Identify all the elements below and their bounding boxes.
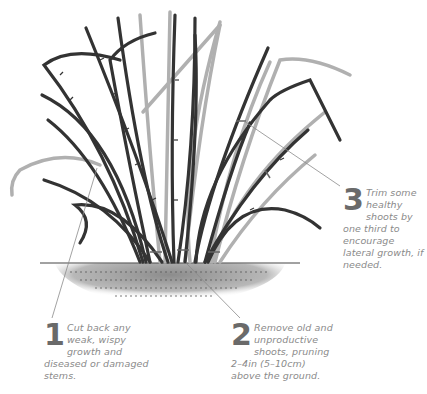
callout-trim-healthy-shoots: 3 Trim some healthy shoots by one third …	[343, 187, 425, 271]
soil-mound	[40, 263, 300, 302]
step-number: 3	[343, 188, 364, 212]
callout-cut-back-weak-growth: 1 Cut back any weak, wispy growth and di…	[44, 322, 154, 382]
step-number: 2	[231, 323, 252, 347]
step-number: 1	[44, 323, 65, 347]
callout-remove-old-shoots: 2 Remove old and unproductive shoots, pr…	[231, 322, 336, 382]
